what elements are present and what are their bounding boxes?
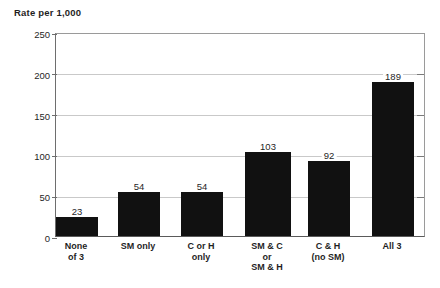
bar[interactable] bbox=[372, 82, 414, 236]
y-axis-tick-right bbox=[417, 156, 424, 157]
y-axis-tick-label: 200 bbox=[34, 69, 50, 80]
bar[interactable] bbox=[308, 161, 350, 236]
y-axis-tick bbox=[52, 115, 57, 116]
y-axis-tick-label: 50 bbox=[39, 192, 50, 203]
x-axis-category-label: C & H(no SM) bbox=[312, 241, 345, 262]
bar-value-label: 23 bbox=[70, 206, 85, 217]
x-axis-category-label: All 3 bbox=[382, 241, 401, 252]
gridline bbox=[56, 115, 424, 116]
bar-value-label: 103 bbox=[258, 141, 278, 152]
bar-value-label: 92 bbox=[322, 150, 337, 161]
x-axis-category-label: SM only bbox=[121, 241, 156, 252]
x-axis-category-label: Noneof 3 bbox=[65, 241, 88, 262]
gridline bbox=[56, 156, 424, 157]
bar[interactable] bbox=[181, 192, 223, 236]
y-axis-tick-right bbox=[417, 74, 424, 75]
y-axis-tick-label: 150 bbox=[34, 110, 50, 121]
plot-area: 05010015020025023545410392189 bbox=[55, 33, 425, 237]
y-axis-tick bbox=[52, 34, 57, 35]
y-axis-tick-label: 0 bbox=[45, 233, 50, 244]
bar[interactable] bbox=[56, 217, 98, 236]
x-axis-category-label: SM & CorSM & H bbox=[251, 241, 283, 273]
x-axis-category-label: C or Honly bbox=[188, 241, 215, 262]
bar-value-label: 54 bbox=[195, 181, 210, 192]
gridline bbox=[56, 74, 424, 75]
chart-title: Rate per 1,000 bbox=[14, 7, 81, 18]
y-axis-tick-label: 100 bbox=[34, 151, 50, 162]
bar[interactable] bbox=[118, 192, 160, 236]
y-axis-tick-label: 250 bbox=[34, 29, 50, 40]
bar-value-label: 189 bbox=[383, 71, 403, 82]
bar-value-label: 54 bbox=[132, 181, 147, 192]
bar[interactable] bbox=[245, 152, 291, 236]
y-axis-tick-right bbox=[417, 197, 424, 198]
y-axis-tick bbox=[52, 238, 57, 239]
y-axis-tick-right bbox=[417, 115, 424, 116]
y-axis-tick bbox=[52, 197, 57, 198]
y-axis-tick bbox=[52, 156, 57, 157]
gridline bbox=[56, 197, 424, 198]
y-axis-tick bbox=[52, 74, 57, 75]
